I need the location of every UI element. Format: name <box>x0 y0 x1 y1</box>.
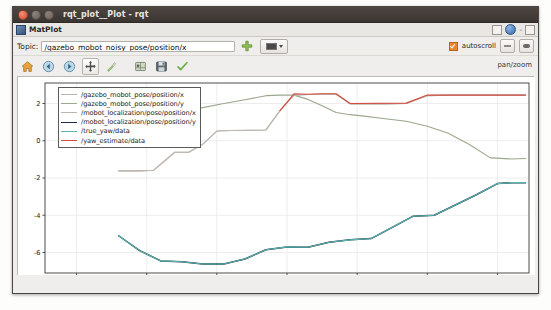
legend-item: /mobot_localization/pose/position/x <box>61 108 196 117</box>
line-style-swatch <box>266 43 277 50</box>
svg-text:2: 2 <box>36 100 40 108</box>
home-icon[interactable] <box>19 58 36 75</box>
legend-item: /true_yaw/data <box>61 127 196 136</box>
add-topic-button[interactable] <box>239 39 254 54</box>
topic-input[interactable]: /gazebo_mobot_noisy_pose/position/x <box>41 41 235 52</box>
pan-move-icon[interactable] <box>82 58 99 75</box>
toggle-button[interactable] <box>519 39 534 53</box>
svg-text:-4: -4 <box>34 212 41 220</box>
legend-line-swatch <box>61 103 77 104</box>
zoom-rect-icon[interactable] <box>103 58 120 75</box>
svg-text:0: 0 <box>36 137 40 145</box>
plot-canvas[interactable]: 443044404450446044704480449020-2-4-6 /ga… <box>17 76 534 292</box>
rqt-main-window: rqt_plot__Plot - rqt MatPlot - Topic: /g… <box>12 6 539 294</box>
config-button[interactable] <box>500 39 515 53</box>
matplot-icon <box>16 25 26 35</box>
separator-dash: - <box>519 26 522 34</box>
legend-item: /yaw_estimate/data <box>61 136 196 145</box>
window-footer <box>13 275 538 293</box>
close-icon[interactable] <box>18 10 28 20</box>
plugin-title: MatPlot <box>29 25 62 34</box>
mode-label: pan/zoom <box>497 61 532 69</box>
check-green-icon[interactable] <box>174 58 191 75</box>
plugin-close-button[interactable] <box>525 25 535 35</box>
legend-label: /mobot_localization/pose/position/y <box>81 118 196 126</box>
legend-line-swatch <box>61 122 77 123</box>
topic-label: Topic: <box>17 42 38 51</box>
legend-item: /gazebo_mobot_pose/position/x <box>61 90 196 99</box>
matplotlib-nav-toolbar: pan/zoom <box>13 56 538 76</box>
legend-label: /gazebo_mobot_pose/position/y <box>81 100 184 108</box>
window-titlebar: rqt_plot__Plot - rqt <box>13 7 538 23</box>
plugin-header-controls: - <box>492 24 535 35</box>
window-title: rqt_plot__Plot - rqt <box>63 10 149 19</box>
forward-arrow-icon[interactable] <box>61 58 78 75</box>
legend-line-swatch <box>61 140 77 141</box>
legend-item: /mobot_localization/pose/position/y <box>61 118 196 127</box>
autoscroll-label: autoscroll <box>462 42 496 50</box>
legend-label: /mobot_localization/pose/position/x <box>81 109 196 117</box>
legend-item: /gazebo_mobot_pose/position/y <box>61 99 196 108</box>
legend-label: /yaw_estimate/data <box>81 137 145 145</box>
legend-label: /true_yaw/data <box>81 127 130 135</box>
minimize-icon[interactable] <box>31 10 41 20</box>
topic-bar: Topic: /gazebo_mobot_noisy_pose/position… <box>13 37 538 56</box>
legend-line-swatch <box>61 131 77 132</box>
line-style-selector[interactable] <box>260 39 288 54</box>
save-disk-icon[interactable] <box>153 58 170 75</box>
maximize-icon[interactable] <box>44 10 54 20</box>
screenshot-root: rqt_plot__Plot - rqt MatPlot - Topic: /g… <box>0 0 551 310</box>
legend-line-swatch <box>61 94 77 95</box>
autoscroll-checkbox[interactable] <box>449 42 458 51</box>
subplot-config-icon[interactable] <box>132 58 149 75</box>
plugin-header: MatPlot - <box>13 23 538 37</box>
chevron-down-icon <box>279 45 283 48</box>
svg-text:-6: -6 <box>34 249 41 257</box>
svg-text:-2: -2 <box>34 174 41 182</box>
topic-bar-right: autoscroll <box>449 39 534 53</box>
help-button[interactable] <box>505 24 516 35</box>
back-arrow-icon[interactable] <box>40 58 57 75</box>
legend-label: /gazebo_mobot_pose/position/x <box>81 91 184 99</box>
plus-icon <box>241 40 253 52</box>
float-button[interactable] <box>492 25 502 35</box>
legend-line-swatch <box>61 112 77 113</box>
legend-box: /gazebo_mobot_pose/position/x/gazebo_mob… <box>58 87 201 148</box>
window-controls <box>18 10 54 20</box>
